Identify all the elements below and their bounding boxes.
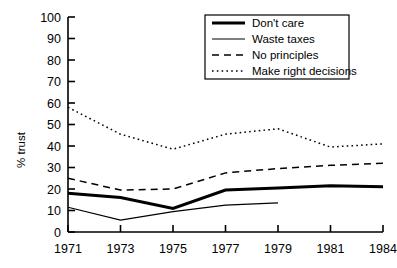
- chart-legend: Don't careWaste taxesNo principlesMake r…: [205, 15, 357, 79]
- y-tick-label: 40: [47, 140, 61, 154]
- legend-item-label: Make right decisions: [252, 65, 357, 77]
- x-tick-label: 1977: [212, 242, 240, 256]
- y-tick-label: 0: [54, 226, 61, 240]
- y-tick-label: 20: [47, 183, 61, 197]
- legend-item-label: Don't care: [252, 17, 304, 29]
- legend-item-label: Waste taxes: [252, 33, 315, 45]
- line-chart: % trust 0102030405060708090100 197119731…: [0, 0, 397, 268]
- chart-container: % trust 0102030405060708090100 197119731…: [0, 0, 397, 268]
- y-tick-label: 60: [47, 97, 61, 111]
- x-tick-label: 1973: [107, 242, 135, 256]
- x-tick-label: 1981: [317, 242, 345, 256]
- y-tick-label: 90: [47, 32, 61, 46]
- y-tick-label: 10: [47, 204, 61, 218]
- y-tick-label: 30: [47, 161, 61, 175]
- y-axis-title: % trust: [15, 131, 27, 168]
- y-tick-label: 50: [47, 118, 61, 132]
- x-tick-label: 1979: [264, 242, 292, 256]
- x-tick-label: 1971: [54, 242, 82, 256]
- y-tick-label: 80: [47, 54, 61, 68]
- x-tick-label: 1984: [369, 242, 397, 256]
- legend-item-label: No principles: [252, 49, 319, 61]
- y-tick-label: 100: [40, 11, 61, 25]
- x-tick-label: 1975: [159, 242, 187, 256]
- y-tick-label: 70: [47, 75, 61, 89]
